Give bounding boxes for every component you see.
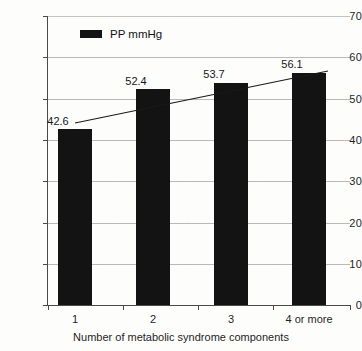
bar-category-1[interactable]: [58, 129, 92, 305]
x-tick-mark-2: [198, 305, 199, 310]
x-tick-label-1: 1: [35, 313, 115, 325]
y-tick-label-30: 30: [322, 176, 362, 187]
bar-value-label-3: 53.7: [191, 69, 237, 80]
legend-swatch-pp-mmhg: [80, 30, 102, 38]
y-tick-label-0: 0: [322, 300, 362, 311]
x-tick-label-3: 3: [191, 313, 271, 325]
y-tick-mark-50: [43, 99, 48, 100]
y-tick-mark-70: [43, 16, 48, 17]
legend-label-pp-mmhg: PP mmHg: [110, 28, 162, 40]
y-tick-mark-30: [43, 181, 48, 182]
x-axis-line: [48, 305, 351, 306]
y-axis-line: [47, 16, 48, 306]
y-tick-mark-10: [43, 264, 48, 265]
x-tick-mark-start: [48, 305, 49, 310]
x-tick-mark-1: [123, 305, 124, 310]
y-tick-mark-40: [43, 140, 48, 141]
bar-value-label-2: 52.4: [113, 76, 159, 87]
y-tick-mark-20: [43, 223, 48, 224]
bar-category-2[interactable]: [136, 89, 170, 305]
y-tick-label-50: 50: [322, 94, 362, 105]
x-tick-label-4-or-more: 4 or more: [269, 313, 349, 325]
bar-value-label-1: 42.6: [35, 116, 81, 127]
x-axis-title: Number of metabolic syndrome components: [0, 331, 362, 344]
bar-category-4-or-more[interactable]: [292, 73, 326, 305]
bar-chart: 70 60 50 40 30 20 10 0 42.6 52.4 53.7 56…: [0, 0, 362, 351]
gridline-70: [48, 16, 350, 17]
legend: PP mmHg: [80, 28, 162, 40]
y-tick-label-60: 60: [322, 52, 362, 63]
y-tick-label-40: 40: [322, 135, 362, 146]
y-tick-label-70: 70: [322, 11, 362, 22]
y-tick-label-10: 10: [322, 259, 362, 270]
x-tick-mark-end: [350, 305, 351, 310]
bar-value-label-4-or-more: 56.1: [269, 59, 315, 70]
bar-category-3[interactable]: [214, 83, 248, 305]
y-tick-mark-60: [43, 57, 48, 58]
x-tick-mark-3: [273, 305, 274, 310]
y-tick-label-20: 20: [322, 218, 362, 229]
x-tick-label-2: 2: [113, 313, 193, 325]
gridline-60: [48, 57, 350, 58]
